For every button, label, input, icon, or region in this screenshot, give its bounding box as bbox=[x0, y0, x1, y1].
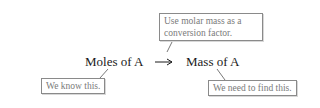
end-node-label: Mass of A bbox=[186, 54, 239, 70]
method-callout-line2: conversion factor. bbox=[164, 27, 258, 39]
unknown-callout: We need to find this. bbox=[208, 80, 297, 96]
right-arrow-icon bbox=[155, 59, 172, 65]
method-callout: Use molar mass as a conversion factor. bbox=[159, 13, 263, 41]
start-node-label: Moles of A bbox=[85, 54, 144, 70]
known-callout: We know this. bbox=[41, 78, 105, 94]
method-callout-line1: Use molar mass as a bbox=[164, 15, 258, 27]
